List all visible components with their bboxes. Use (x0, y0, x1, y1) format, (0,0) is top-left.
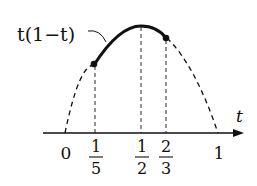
svg-text:1: 1 (137, 137, 147, 156)
tick-1: 1 (214, 143, 225, 163)
svg-text:3: 3 (161, 159, 171, 178)
tick-1-5: 1 5 (89, 137, 103, 178)
label-callout-line (88, 31, 106, 42)
svg-text:5: 5 (91, 159, 101, 178)
endpoint-dot-left (91, 61, 98, 68)
tick-0: 0 (61, 143, 72, 163)
svg-text:2: 2 (161, 137, 171, 156)
svg-text:1: 1 (91, 137, 101, 156)
parabola-dashed-left (65, 65, 94, 133)
axis-arrow-icon (233, 129, 244, 137)
axis-label: t (236, 106, 243, 126)
tick-2-3: 2 3 (159, 137, 173, 178)
parabola-solid-arc (94, 26, 166, 65)
parabola-diagram: t t(1−t) 0 1 5 1 2 2 3 1 (0, 0, 257, 186)
parabola-dashed-right (167, 38, 218, 133)
function-label: t(1−t) (17, 23, 75, 45)
svg-text:2: 2 (137, 159, 147, 178)
tick-1-2: 1 2 (135, 137, 149, 178)
